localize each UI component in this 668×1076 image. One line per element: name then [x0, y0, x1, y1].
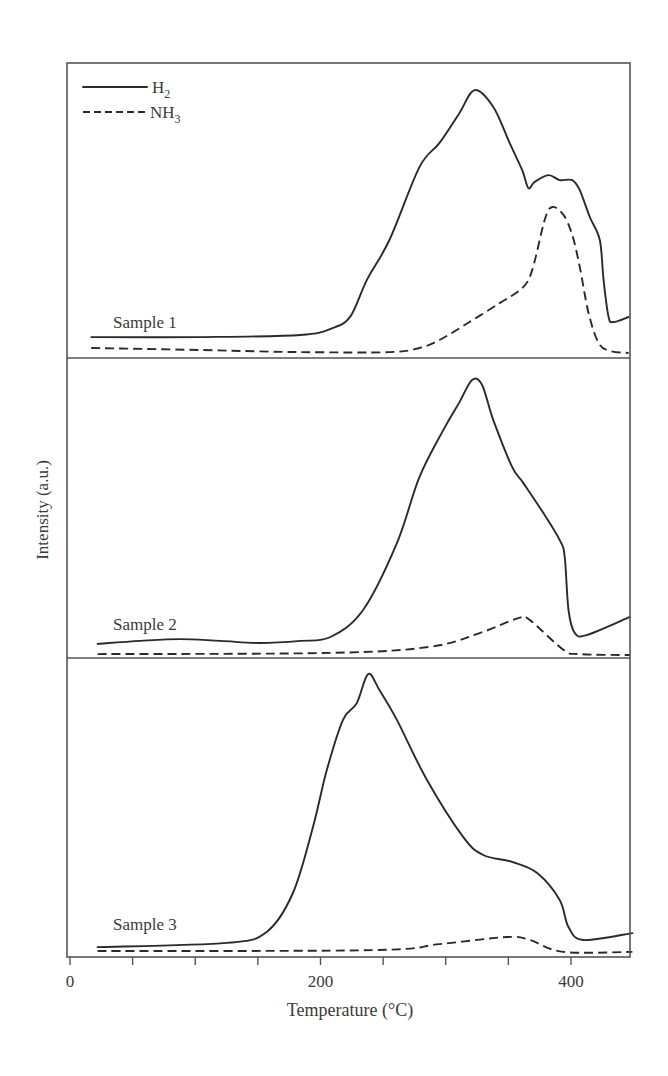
tpd-chart: Sample 1Sample 2Sample 3 0200400 H2 NH3 …: [0, 0, 668, 1076]
y-axis-label: Intensity (a.u.): [33, 460, 52, 560]
sample-label: Sample 1: [113, 313, 177, 332]
plot-panels: Sample 1Sample 2Sample 3: [67, 90, 632, 953]
panel-3: Sample 3: [67, 658, 632, 953]
series-h2-line: [91, 90, 628, 337]
sample-label: Sample 3: [113, 915, 177, 934]
sample-label: Sample 2: [113, 615, 177, 634]
panel-1: Sample 1: [91, 90, 628, 353]
legend-h2-label: H2: [152, 78, 170, 101]
plot-frame: [67, 63, 630, 957]
x-axis-ticks: 0200400: [66, 957, 584, 991]
x-axis-label: Temperature (°C): [287, 1000, 413, 1021]
legend-nh3-label: NH3: [150, 103, 181, 126]
legend: H2 NH3: [83, 78, 181, 126]
x-tick-label: 400: [558, 972, 584, 991]
x-tick-label: 200: [308, 972, 334, 991]
series-nh3-line: [98, 616, 630, 655]
x-tick-label: 0: [66, 972, 75, 991]
series-h2-line: [98, 378, 630, 643]
series-h2-line: [98, 674, 633, 947]
panel-2: Sample 2: [67, 358, 630, 655]
